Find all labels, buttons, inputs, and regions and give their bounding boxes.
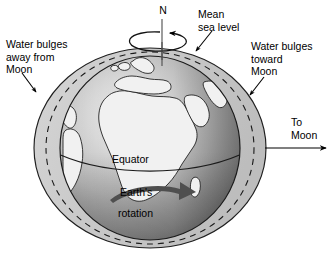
leader-bulge-away bbox=[22, 73, 36, 92]
island-madagascar bbox=[190, 177, 200, 197]
label-equator: Equator bbox=[112, 153, 172, 166]
label-mean-sea-level: Mean sea level bbox=[198, 8, 268, 33]
leader-bulge-toward bbox=[250, 77, 264, 95]
leader-mean-sea-level bbox=[196, 31, 212, 51]
label-earths-rotation-line1: Earth's bbox=[120, 186, 180, 199]
label-to-moon: To Moon bbox=[291, 116, 334, 141]
label-earths-rotation-line2: rotation bbox=[118, 207, 188, 220]
landmass-british-isles bbox=[118, 63, 130, 71]
label-water-bulges-toward-moon: Water bulges toward Moon bbox=[251, 40, 331, 78]
label-water-bulges-away-from-moon: Water bulges away from Moon bbox=[6, 38, 102, 76]
diagram-canvas: N Mean sea level Water bulges away from … bbox=[0, 0, 334, 279]
label-north-pole: N bbox=[155, 4, 171, 17]
landmass-iceland bbox=[111, 65, 119, 71]
